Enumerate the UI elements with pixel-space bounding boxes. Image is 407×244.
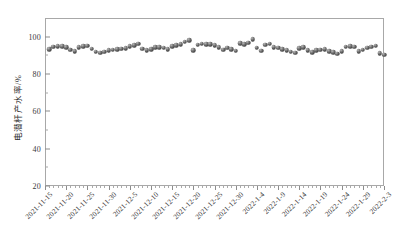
x-axis-minor-tick-mark [121,186,122,188]
x-axis-tick-mark [384,186,385,190]
x-axis-minor-tick-mark [176,186,177,188]
x-axis-minor-tick-mark [371,186,372,188]
x-axis-tick-mark [172,186,173,190]
x-axis-minor-tick-mark [210,186,211,188]
x-axis-minor-tick-mark [261,186,262,188]
x-axis-minor-tick-mark [312,186,313,188]
x-axis-minor-tick-mark [83,186,84,188]
data-point [293,50,298,55]
x-axis-minor-tick-mark [113,186,114,188]
data-point [233,49,238,54]
x-axis-minor-tick-mark [325,186,326,188]
x-axis-minor-tick-mark [308,186,309,188]
x-axis-minor-tick-mark [206,186,207,188]
x-axis-minor-tick-mark [155,186,156,188]
y-axis-tick-mark [45,36,50,37]
x-axis-minor-tick-mark [350,186,351,188]
x-axis-minor-tick-mark [253,186,254,188]
y-axis-tick-label: 100 [0,32,41,41]
x-axis-tick-mark [320,186,321,190]
x-axis-tick-mark [45,186,46,190]
x-axis-minor-tick-mark [244,186,245,188]
x-axis-tick-mark [236,186,237,190]
x-axis-minor-tick-mark [58,186,59,188]
x-axis-minor-tick-mark [376,186,377,188]
x-axis-tick-label: 2022-2-3 [368,190,394,216]
x-axis-minor-tick-mark [168,186,169,188]
x-axis-minor-tick-mark [100,186,101,188]
x-axis-minor-tick-mark [164,186,165,188]
x-axis-minor-tick-mark [117,186,118,188]
x-axis-minor-tick-mark [104,186,105,188]
x-axis-minor-tick-mark [346,186,347,188]
y-axis-tick-mark [45,148,50,149]
x-axis-minor-tick-mark [92,186,93,188]
x-axis-tick-mark [66,186,67,190]
x-axis-minor-tick-mark [198,186,199,188]
data-point [191,48,196,53]
x-axis-minor-tick-mark [265,186,266,188]
data-point [72,49,77,54]
x-axis-minor-tick-mark [227,186,228,188]
x-axis-minor-tick-mark [380,186,381,188]
y-axis-tick-mark [45,74,50,75]
x-axis-minor-tick-mark [295,186,296,188]
x-axis-minor-tick-mark [287,186,288,188]
x-axis-minor-tick-mark [189,186,190,188]
data-point [187,38,192,43]
x-axis-minor-tick-mark [337,186,338,188]
x-axis-minor-tick-mark [75,186,76,188]
x-axis-minor-tick-mark [282,186,283,188]
x-axis-minor-tick-mark [70,186,71,188]
x-axis-tick-mark [109,186,110,190]
x-axis-tick-mark [87,186,88,190]
y-axis-minor-tick-mark [45,167,48,168]
x-axis-minor-tick-mark [134,186,135,188]
x-axis-minor-tick-mark [219,186,220,188]
x-axis-minor-tick-mark [329,186,330,188]
y-axis-minor-tick-mark [45,130,48,131]
y-axis-tick-mark [45,111,50,112]
x-axis-minor-tick-mark [62,186,63,188]
y-axis-minor-tick-mark [45,55,48,56]
x-axis-tick-mark [193,186,194,190]
x-axis-minor-tick-mark [291,186,292,188]
scatter-chart: 20406080100 电潜杆产水率/% 2021-11-152021-11-2… [0,0,407,244]
x-axis-tick-mark [363,186,364,190]
y-axis-title: 电潜杆产水率/% [11,65,23,151]
x-axis-minor-tick-mark [202,186,203,188]
x-axis-minor-tick-mark [147,186,148,188]
x-axis-minor-tick-mark [159,186,160,188]
x-axis-minor-tick-mark [274,186,275,188]
data-point [339,49,344,54]
data-point [373,43,378,48]
x-axis-minor-tick-mark [367,186,368,188]
x-axis-minor-tick-mark [126,186,127,188]
x-axis-tick-mark [342,186,343,190]
x-axis-minor-tick-mark [79,186,80,188]
x-axis-minor-tick-mark [354,186,355,188]
x-axis-minor-tick-mark [96,186,97,188]
x-axis-minor-tick-mark [270,186,271,188]
data-point [259,49,264,54]
y-axis-minor-tick-mark [45,92,48,93]
data-point [352,44,357,49]
x-axis-minor-tick-mark [333,186,334,188]
x-axis-tick-mark [215,186,216,190]
x-axis-minor-tick-mark [240,186,241,188]
x-axis-tick-mark [130,186,131,190]
x-axis-minor-tick-mark [142,186,143,188]
x-axis-minor-tick-mark [303,186,304,188]
x-axis-tick-mark [151,186,152,190]
x-axis-minor-tick-mark [53,186,54,188]
x-axis-minor-tick-mark [185,186,186,188]
x-axis-minor-tick-mark [49,186,50,188]
x-axis-tick-mark [299,186,300,190]
y-axis-tick-label: 20 [0,182,41,191]
x-axis-minor-tick-mark [248,186,249,188]
x-axis-minor-tick-mark [138,186,139,188]
data-point [136,41,141,46]
x-axis-minor-tick-mark [359,186,360,188]
x-axis-tick-mark [278,186,279,190]
x-axis-tick-label: 2022-1-4 [240,190,266,216]
